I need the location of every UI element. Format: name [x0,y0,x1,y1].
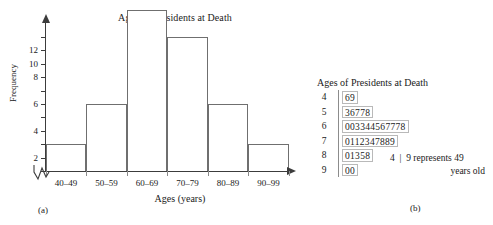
stem-value: 7 [317,134,331,149]
leaf-values: 0112347889 [342,135,398,148]
stemplot-key: 4 | 9 represents 49 years old [390,152,493,178]
x-tick [86,171,87,176]
y-axis-title: Frequency [8,53,18,113]
bar-90-99 [248,144,289,171]
stem-value: 9 [317,163,331,178]
stemplot-panel: Ages of Presidents at Death 4 69 5 36778… [310,0,493,225]
stemplot-title: Ages of Presidents at Death [317,77,428,88]
axis-break-icon [33,163,57,181]
leaf-values: 00 [342,164,358,177]
leaf-values: 69 [342,91,358,104]
stemplot-key-line2: years old [390,165,493,178]
bar-50-59 [86,104,127,171]
leaf-values: 003344567778 [342,120,409,133]
stem-value: 6 [317,119,331,134]
bar-60-69 [127,10,167,171]
y-tick-label: 6 [16,100,38,109]
stem-value: 5 [317,105,331,120]
plot-area [46,36,291,171]
y-tick-label: 8 [16,73,38,82]
histogram-title: Ages of Presidents at Death [60,12,290,23]
figure-container: Ages of Presidents at Death 2 4 6 8 10 1… [0,0,493,225]
leaf-values: 01358 [342,149,373,162]
x-tick [289,171,290,176]
leaf-values: 36778 [342,106,373,119]
y-tick-label: 4 [16,127,38,136]
x-tick-label: 90–99 [245,178,293,188]
x-tick [127,171,128,176]
x-tick [248,171,249,176]
panel-a-label: (a) [38,205,48,215]
stem-value: 8 [317,148,331,163]
stem-divider-line [338,90,339,177]
x-tick [208,171,209,176]
stemplot-key-line1: 4 | 9 represents 49 [390,152,493,165]
histogram-panel: Ages of Presidents at Death 2 4 6 8 10 1… [0,0,310,225]
bar-80-89 [208,104,248,171]
x-axis-title: Ages (years) [100,193,260,204]
x-tick [167,171,168,176]
panel-b-label: (b) [410,203,421,213]
stem-value: 4 [317,90,331,105]
bar-70-79 [167,37,208,171]
y-tick-label: 2 [16,154,38,163]
